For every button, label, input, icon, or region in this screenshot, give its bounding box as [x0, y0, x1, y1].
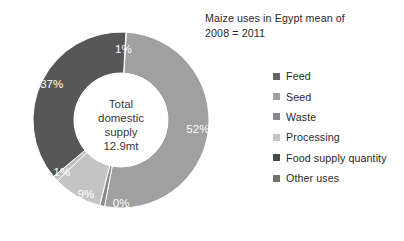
donut-slice-label: 37% — [40, 78, 63, 90]
legend-item-label: Waste — [286, 111, 316, 123]
legend-item[interactable]: Processing — [273, 127, 403, 147]
chart-legend: FeedSeedWasteProcessingFood supply quant… — [273, 66, 403, 188]
donut-slice-label: 1% — [54, 166, 71, 178]
chart-title-line2: 2008 = 2011 — [205, 26, 401, 41]
chart-title: Maize uses in Egypt mean of 2008 = 2011 — [205, 11, 401, 41]
legend-swatch-icon — [273, 154, 280, 161]
legend-swatch-icon — [273, 113, 280, 120]
donut-chart-svg: Total domestic supply 12.9mt 1%52%0%9%1%… — [18, 16, 224, 224]
legend-item[interactable]: Feed — [273, 66, 403, 86]
legend-item-label: Other uses — [286, 172, 339, 184]
legend-item-label: Feed — [286, 70, 311, 82]
legend-swatch-icon — [273, 175, 280, 182]
chart-canvas: Total domestic supply 12.9mt 1%52%0%9%1%… — [0, 0, 404, 241]
chart-title-line1: Maize uses in Egypt mean of — [205, 11, 401, 26]
legend-item[interactable]: Other uses — [273, 168, 403, 188]
center-text-line4: 12.9mt — [103, 140, 139, 152]
legend-swatch-icon — [273, 73, 280, 80]
center-text-line3: supply — [104, 126, 137, 138]
legend-swatch-icon — [273, 134, 280, 141]
donut-slice-label: 1% — [115, 43, 132, 55]
donut-slice-label: 9% — [78, 188, 95, 200]
legend-item[interactable]: Food supply quantity — [273, 148, 403, 168]
center-text-line2: domestic — [98, 112, 144, 124]
legend-swatch-icon — [273, 93, 280, 100]
donut-slice-label: 52% — [186, 123, 209, 135]
donut-chart: Total domestic supply 12.9mt 1%52%0%9%1%… — [18, 16, 224, 224]
center-text-line1: Total — [109, 98, 133, 110]
legend-item-label: Seed — [286, 91, 311, 103]
legend-item[interactable]: Waste — [273, 107, 403, 127]
legend-item[interactable]: Seed — [273, 86, 403, 106]
legend-item-label: Processing — [286, 131, 340, 143]
donut-slice-label: 0% — [113, 197, 130, 209]
legend-item-label: Food supply quantity — [286, 152, 387, 164]
